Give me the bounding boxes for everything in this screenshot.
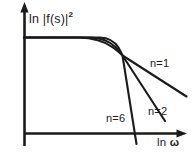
x-axis-label: ln ω [157, 137, 179, 149]
curve-label-n6: n=6 [106, 113, 125, 124]
x-axis-label-prefix: ln [157, 136, 170, 148]
y-axis-label-main: ln |f(s)| [29, 12, 69, 26]
y-axis-label-exponent: 2 [69, 10, 74, 19]
y-axis-label: ln |f(s)|2 [29, 12, 73, 26]
curve-label-n1: n=1 [150, 58, 169, 69]
figure-canvas: ln |f(s)|2 ln ω n=1 n=2 n=6 [0, 0, 194, 156]
y-axis-arrowhead [20, 2, 28, 13]
curve-n2 [24, 38, 165, 122]
curve-label-n2: n=2 [148, 106, 167, 117]
omega-symbol: ω [170, 136, 180, 148]
